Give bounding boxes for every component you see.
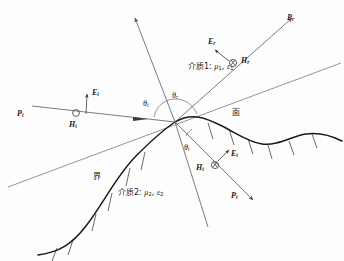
incident-ray — [32, 94, 175, 122]
label-medium-2: 介质2: μ2, ε2 — [118, 189, 164, 198]
label-angle-incidence: θi — [143, 100, 148, 109]
tangent-plane-line — [8, 63, 341, 187]
diagram-canvas — [0, 0, 344, 261]
incident-e-arrow — [86, 94, 87, 114]
label-transmitted-efield: Et — [231, 150, 238, 159]
label-reflected-hfield: Hr — [241, 57, 249, 66]
label-interface-right: 面 — [232, 109, 240, 117]
label-reflected-poynting: Pr — [287, 14, 294, 23]
label-medium-1: 介质1: μ1, ε1 — [188, 63, 234, 72]
arc-theta-t — [186, 129, 192, 136]
reflected-e-arrow — [215, 50, 229, 61]
label-reflected-efield: Er — [208, 38, 215, 47]
label-incident-efield: Ei — [92, 89, 99, 98]
label-transmitted-poynting: Pt — [231, 192, 237, 201]
wave-incidence-diagram: Pi Ei Hi Pr Er Hr Et Ht Pt θi θr θt 介质1:… — [0, 0, 344, 261]
label-angle-transmission: θt — [184, 144, 189, 153]
label-incident-hfield: Hi — [69, 121, 77, 130]
label-interface-left: 界 — [93, 173, 101, 181]
label-incident-poynting: Pi — [17, 110, 23, 119]
transmitted-e-arrow — [218, 150, 229, 161]
label-transmitted-hfield: Ht — [196, 164, 204, 173]
arc-theta-i — [154, 101, 166, 117]
transmitted-ray — [175, 122, 253, 200]
label-angle-reflection: θr — [172, 92, 178, 101]
incident-arrowhead — [133, 117, 148, 121]
